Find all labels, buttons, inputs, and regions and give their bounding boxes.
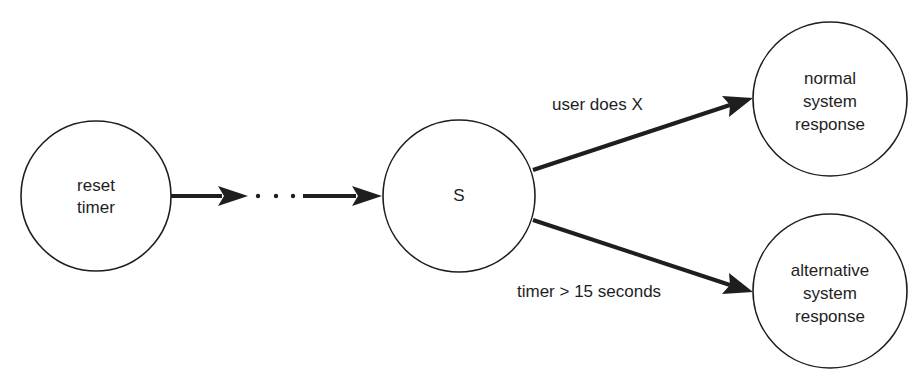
node-s: S: [453, 185, 464, 207]
node-label-line: response: [791, 305, 869, 328]
node-label-line: system: [795, 90, 865, 113]
node-label-line: timer: [77, 197, 115, 219]
node-alternative-system-response: alternative system response: [791, 259, 869, 328]
node-label-line: reset: [77, 175, 115, 197]
node-reset-timer: reset timer: [77, 175, 115, 219]
state-diagram: reset timer S normal system response alt…: [0, 0, 921, 388]
node-label-line: S: [453, 185, 464, 207]
node-normal-system-response: normal system response: [795, 67, 865, 136]
edge-reset-timer-to-ellipsis: [171, 186, 248, 206]
node-label-line: response: [795, 113, 865, 136]
node-label-line: system: [791, 282, 869, 305]
edge-label-user-does-x: user does X: [552, 95, 643, 115]
node-label-line: normal: [795, 67, 865, 90]
node-label-line: alternative: [791, 259, 869, 282]
ellipsis-dots: [256, 194, 295, 198]
edge-label-timer-gt-15-seconds: timer > 15 seconds: [517, 282, 661, 302]
edge-ellipsis-to-s: [303, 186, 382, 206]
